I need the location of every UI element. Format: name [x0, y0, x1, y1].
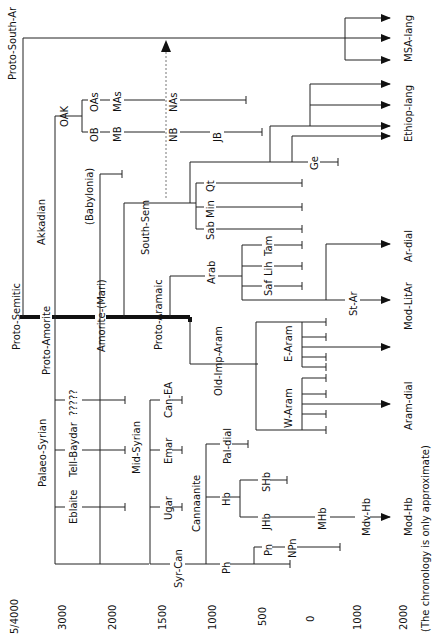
axis-tick-1000: 1000: [207, 605, 218, 630]
amorite-mari-label: Amorite-(Mari): [96, 279, 107, 352]
can-ea-label: Can-EA: [163, 382, 174, 418]
axis-top-label: 5/4000: [9, 599, 20, 634]
tam-label: Tam: [263, 236, 274, 257]
msa-lang-label: MSA-lang: [403, 15, 414, 62]
nb-label: NB: [168, 128, 179, 142]
qt-label: Qt: [205, 180, 216, 192]
oas-label: OAs: [89, 92, 100, 112]
proto-amorite-label: Proto-Amorite: [41, 306, 52, 375]
mb-label: MB: [112, 126, 123, 142]
st-ar-label: St-Ar: [348, 291, 359, 316]
mhb-label: MHb: [317, 508, 328, 531]
shb-label: SHb: [261, 472, 272, 492]
proto-aramaic-label: Proto-Aramaic: [153, 279, 164, 350]
ge-label: Ge: [309, 156, 320, 170]
sab-label: Sab: [205, 221, 216, 240]
axis-tick-0: 0: [305, 616, 316, 622]
jhb-label: JHb: [261, 513, 272, 531]
lih-label: Lih: [263, 261, 274, 276]
mdv-hb-label: Mdv-Hb: [361, 498, 372, 536]
ugar-label: Ugar: [163, 495, 174, 520]
axis-tick-1000-ad: 1000: [352, 605, 363, 630]
south-sem-label: South-Sem: [140, 200, 151, 255]
emar-label: Emar: [163, 437, 174, 464]
proto-south-ar-label: Proto-South-Ar: [7, 6, 18, 80]
mas-label: MAs: [112, 91, 123, 112]
chronology-footnote: (The chronology is only approximate): [420, 445, 431, 632]
old-imp-aram-label: Old-Imp-Aram: [213, 326, 224, 396]
akkadian-label: Akkadian: [36, 199, 47, 245]
axis-tick-2000-ad: 2000: [398, 605, 409, 630]
e-aram-label: E-Aram: [283, 325, 294, 362]
mod-litar-label: Mod-LitAr: [403, 281, 414, 330]
ob-label: OB: [89, 127, 100, 142]
hb-label: Hb: [221, 492, 232, 506]
cannaanite-label: Cannaanite: [191, 475, 202, 532]
nas-label: NAs: [168, 92, 179, 112]
w-aram-label: W-Aram: [283, 388, 294, 428]
labels: Proto-South-Ar Proto-Semitic Akkadian Pr…: [7, 6, 414, 588]
tell-baydar-label: Tell-Baydar: [68, 421, 79, 478]
axis-tick-2000: 2000: [107, 605, 118, 630]
mod-hb-label: Mod-Hb: [403, 497, 414, 536]
palaeo-syrian-label: Palaeo-Syrian: [37, 419, 48, 487]
arab-label: Arab: [206, 261, 217, 284]
eblaite-label: Eblaite: [68, 490, 79, 524]
pn-label: Pn: [263, 544, 274, 556]
mid-syrian-label: Mid-Syrian: [131, 421, 142, 474]
semitic-language-tree: Proto-South-Ar Proto-Semitic Akkadian Pr…: [0, 0, 437, 642]
babylonia-label: (Babylonia): [84, 168, 95, 225]
ph-label: Ph: [221, 562, 232, 574]
proto-semitic-label: Proto-Semitic: [11, 283, 22, 350]
axis-tick-1500: 1500: [157, 605, 168, 630]
ar-dial-label: Ar-dial: [403, 230, 414, 262]
unknown-label: ?????: [68, 389, 79, 416]
oak-label: OAK: [59, 105, 70, 127]
min-label: Min: [205, 200, 216, 218]
pal-dial-label: Pal-dial: [222, 428, 233, 464]
axis-tick-500: 500: [257, 607, 268, 626]
syr-can-label: Syr-Can: [173, 549, 184, 588]
npn-label: NPn: [287, 538, 298, 558]
dashed-range-arrow: [161, 40, 171, 198]
axis-tick-3000: 3000: [57, 605, 68, 630]
jb-label: JB: [212, 132, 223, 143]
ethiop-lang-label: Ethiop-lang: [403, 85, 414, 142]
aram-dial-label: Aram-dial: [403, 382, 414, 430]
saf-label: Saf: [263, 280, 274, 296]
